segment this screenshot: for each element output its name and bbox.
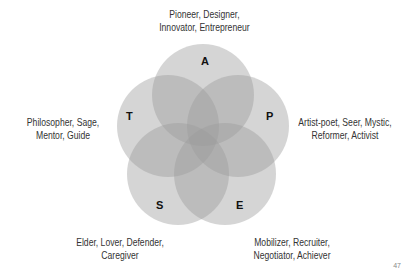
caption-s-line-1: Elder, Lover, Defender, [63, 236, 178, 249]
letter-p: P [266, 110, 273, 122]
caption-s-line-2: Caregiver [63, 249, 178, 262]
circle-t [117, 75, 219, 177]
letter-e: E [236, 199, 243, 211]
caption-a: Pioneer, Designer, Innovator, Entreprene… [37, 8, 372, 34]
letter-t: T [126, 110, 133, 122]
caption-a-line-1: Pioneer, Designer, [37, 8, 372, 21]
letter-a: A [201, 55, 209, 67]
caption-p-line-1: Artist-poet, Seer, Mystic, [294, 116, 396, 129]
caption-e-line-2: Negotiator, Achiever [243, 249, 341, 262]
caption-e: Mobilizer, Recruiter, Negotiator, Achiev… [243, 236, 341, 262]
caption-e-line-1: Mobilizer, Recruiter, [243, 236, 341, 249]
caption-p-line-2: Reformer, Activist [294, 129, 396, 142]
caption-t-line-2: Mentor, Guide [18, 129, 108, 142]
page-number: 47 [393, 262, 401, 269]
caption-p: Artist-poet, Seer, Mystic, Reformer, Act… [294, 116, 396, 142]
caption-s: Elder, Lover, Defender, Caregiver [63, 236, 178, 262]
caption-t-line-1: Philosopher, Sage, [18, 116, 108, 129]
caption-a-line-2: Innovator, Entrepreneur [37, 21, 372, 34]
caption-t: Philosopher, Sage, Mentor, Guide [18, 116, 108, 142]
letter-s: S [156, 199, 163, 211]
